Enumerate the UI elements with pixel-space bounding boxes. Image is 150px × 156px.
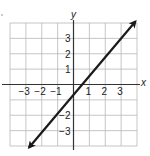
y-axis-label: y	[70, 9, 77, 20]
y-tick-label: 3	[65, 33, 71, 44]
y-tick-label: −3	[59, 126, 71, 137]
corner-dot	[1, 14, 3, 16]
x-tick-label: 1	[86, 86, 92, 97]
y-tick-label: 2	[65, 49, 71, 60]
x-tick-label: −2	[34, 86, 46, 97]
x-tick-label: 2	[101, 86, 107, 97]
coordinate-plane-chart: −3−2−1123321−2−3 x y	[0, 0, 150, 156]
y-tick-label: 1	[65, 64, 71, 75]
x-tick-label: 3	[117, 86, 123, 97]
x-tick-label: −3	[18, 86, 30, 97]
y-tick-label: −2	[59, 110, 71, 121]
x-tick-label: −1	[50, 86, 62, 97]
x-axis-label: x	[140, 77, 147, 88]
